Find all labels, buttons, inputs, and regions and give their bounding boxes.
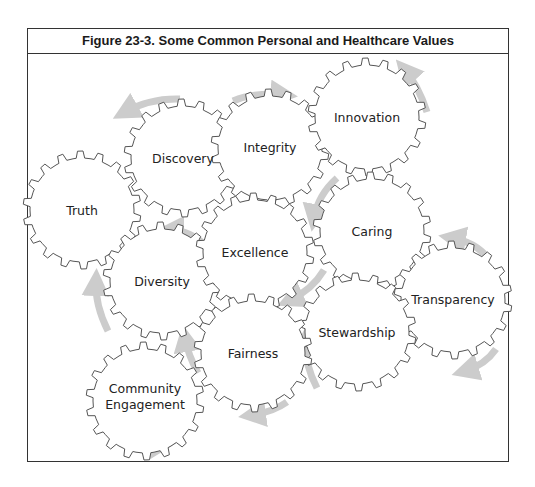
gear-label-stewardship: Stewardship — [318, 325, 395, 340]
gear-label-discovery: Discovery — [152, 151, 214, 166]
gear-label-truth: Truth — [65, 203, 98, 218]
gear-label-innovation: Innovation — [334, 110, 400, 125]
gear-label-transparency: Transparency — [410, 292, 495, 307]
gear-label-excellence: Excellence — [222, 245, 289, 260]
gears-diagram: Discovery Integrity Innovation Truth Div… — [0, 0, 535, 487]
gear-label-integrity: Integrity — [243, 140, 297, 155]
gear-label-caring: Caring — [352, 224, 393, 239]
gear-label-diversity: Diversity — [134, 274, 190, 289]
gear-label-engagement: Engagement — [105, 397, 185, 412]
gear-label-community: Community — [109, 381, 182, 396]
gear-label-fairness: Fairness — [228, 346, 279, 361]
